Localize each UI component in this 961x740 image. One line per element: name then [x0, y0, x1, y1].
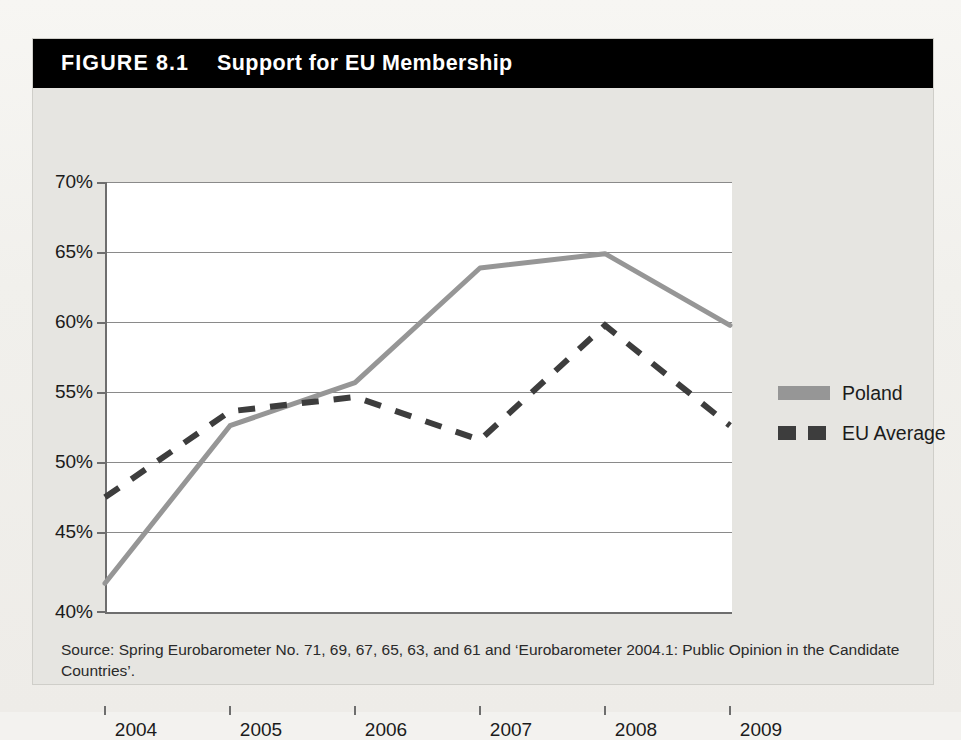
y-tick-label-50: 50% [55, 451, 93, 473]
x-tick-label-2004: 2004 [115, 719, 157, 740]
x-tick-label-2007: 2007 [490, 719, 532, 740]
y-tick-label-55: 55% [55, 381, 93, 403]
legend-swatch-poland [778, 386, 830, 400]
x-tick-label-2009: 2009 [740, 719, 782, 740]
figure-container: FIGURE 8.1 Support for EU Membership 70%… [33, 39, 933, 684]
figure-title-banner: FIGURE 8.1 Support for EU Membership [33, 39, 933, 88]
x-tick-label-2008: 2008 [615, 719, 657, 740]
x-tick-label-2005: 2005 [240, 719, 282, 740]
x-tick-label-2006: 2006 [365, 719, 407, 740]
series-line-eu-average [105, 325, 730, 497]
figure-source-note: Source: Spring Eurobarometer No. 71, 69,… [61, 639, 906, 681]
y-tick-label-70: 70% [55, 171, 93, 193]
y-tick-label-45: 45% [55, 521, 93, 543]
figure-number-label: FIGURE 8.1 [61, 51, 189, 76]
y-tick-label-40: 40% [55, 601, 93, 623]
y-tick-label-65: 65% [55, 241, 93, 263]
series-line-poland [105, 254, 730, 584]
chart-legend: Poland EU Average [778, 373, 928, 453]
y-axis-labels: 70% 65% 60% 55% 50% 45% 40% [33, 182, 93, 612]
y-tick-label-60: 60% [55, 311, 93, 333]
legend-label-eu-average: EU Average [842, 422, 946, 445]
legend-item-eu-average: EU Average [778, 413, 928, 453]
series-plot [105, 182, 730, 612]
chart-area: 70% 65% 60% 55% 50% 45% 40% 2004 2005 20… [33, 88, 933, 633]
figure-title: Support for EU Membership [217, 51, 512, 76]
legend-swatch-eu-average [778, 426, 830, 440]
legend-label-poland: Poland [842, 382, 903, 405]
legend-item-poland: Poland [778, 373, 928, 413]
